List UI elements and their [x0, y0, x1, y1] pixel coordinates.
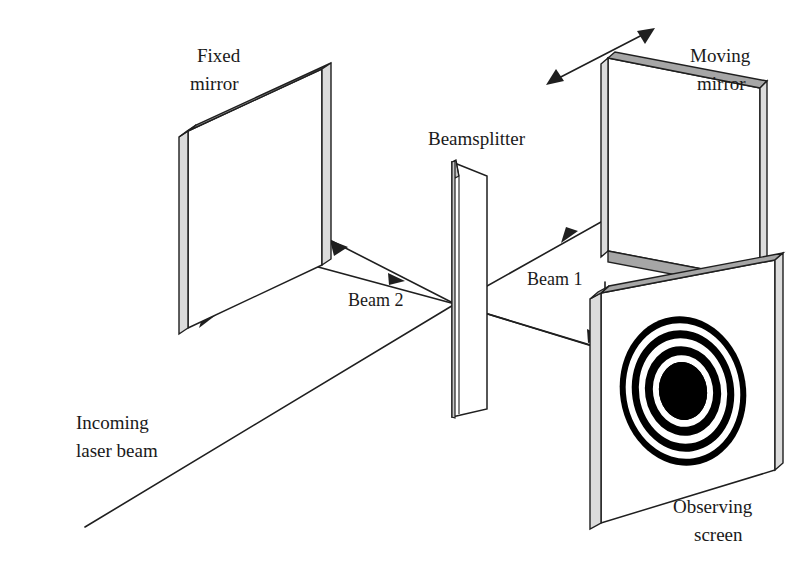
moving-mirror-left-edge [601, 58, 608, 257]
beam-1-label: Beam 1 [527, 269, 583, 289]
interferometer-diagram: Fixed mirror Beamsplitter Moving mirror … [0, 0, 794, 581]
fixed-mirror-right-edge [322, 63, 331, 265]
beamsplitter-thickness-edge [452, 161, 455, 418]
fixed-mirror [179, 63, 331, 334]
beamsplitter-label: Beamsplitter [428, 128, 526, 149]
moving-mirror-right-edge [760, 81, 767, 280]
incoming-beam-label-line2: laser beam [76, 440, 158, 461]
beam-2-upper-arrowhead [330, 240, 348, 256]
fixed-mirror-label-line2: mirror [190, 73, 239, 94]
observing-screen-right-edge [775, 253, 783, 470]
observing-screen-label-line2: screen [694, 524, 743, 545]
incoming-beam-label-line1: Incoming [76, 412, 149, 433]
moving-mirror-label-line2: mirror [697, 73, 746, 94]
fixed-mirror-label-line1: Fixed [197, 45, 241, 66]
beamsplitter-face [452, 162, 487, 417]
fixed-mirror-face [188, 69, 322, 328]
observing-screen-left-edge [590, 293, 601, 529]
beamsplitter [452, 160, 487, 418]
interferometer-canvas: Fixed mirror Beamsplitter Moving mirror … [0, 0, 794, 581]
observing-screen-label-line1: Observing [673, 496, 753, 517]
observing-screen [590, 253, 783, 529]
translation-arrow-head-lower [546, 69, 564, 85]
moving-mirror-label-line1: Moving [690, 45, 751, 66]
fixed-mirror-left-edge [179, 131, 188, 334]
beam-2-label: Beam 2 [348, 290, 404, 310]
